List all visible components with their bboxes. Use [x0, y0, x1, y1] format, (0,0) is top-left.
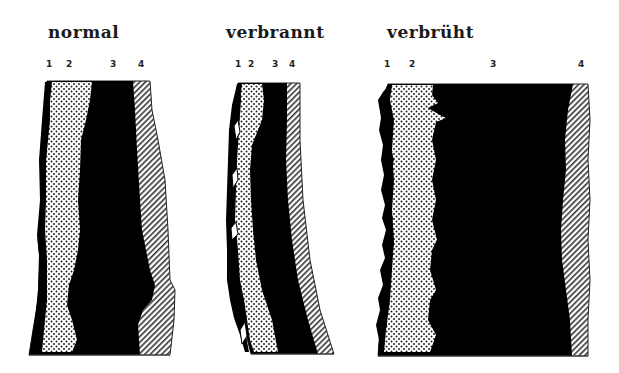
section-normal — [29, 81, 175, 355]
section-verbrannt — [226, 83, 334, 354]
skin-sections-diagram — [0, 0, 619, 373]
section-verbrueht — [376, 84, 590, 356]
